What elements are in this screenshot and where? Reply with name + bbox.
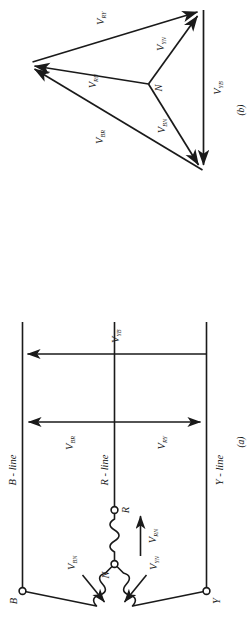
phasor-origin-label: N: [152, 84, 163, 93]
v-bn-arrow: [82, 575, 104, 602]
caption-b: (b): [235, 104, 246, 115]
v-ry-phasor-label: VRY: [94, 11, 107, 25]
v-rn-phasor-label: VRN: [86, 73, 99, 88]
v-ry-label: VRY: [155, 435, 168, 449]
figure-rotated-canvas: VYB VBR VRY B - line R - line Y - line R: [0, 0, 247, 622]
y-terminal-label: Y: [210, 597, 221, 604]
v-br-phasor-label: VBR: [93, 130, 106, 144]
v-yb-label: VYB: [109, 329, 122, 343]
v-yn-phasor-label: VYN: [154, 36, 167, 51]
b-line-label: B - line: [6, 454, 17, 485]
v-br-label: VBR: [63, 436, 76, 450]
r-terminal-node: [111, 507, 118, 514]
r-line-label: R - line: [98, 454, 109, 486]
v-bn-phasor-label: VBN: [155, 118, 168, 133]
v-yn-label: VYN: [147, 555, 160, 570]
y-phase-lead: [132, 591, 206, 606]
v-yb-phasor-label: VYB: [211, 81, 224, 95]
y-terminal-node: [203, 588, 210, 595]
figure-svg: VYB VBR VRY B - line R - line Y - line R: [0, 0, 247, 622]
b-terminal-label: B: [7, 597, 18, 604]
circuit-diagram-a: VYB VBR VRY B - line R - line Y - line R: [6, 322, 246, 606]
v-rn-label: VRN: [146, 528, 159, 543]
caption-a: (a): [235, 436, 246, 447]
v-bn-label: VBN: [65, 555, 78, 570]
phasor-diagram-b: VRN VBN VYN N VBR VRY: [32, 10, 246, 170]
r-phase-coil: [110, 514, 119, 560]
r-terminal-label: R: [119, 506, 130, 514]
y-line-label: Y - line: [213, 455, 224, 486]
v-ry-phasor: [32, 12, 197, 62]
b-phase-lead: [22, 591, 96, 606]
v-br-phasor: [34, 69, 202, 170]
b-terminal-node: [19, 588, 26, 595]
figure-root: VYB VBR VRY B - line R - line Y - line R: [0, 0, 247, 622]
